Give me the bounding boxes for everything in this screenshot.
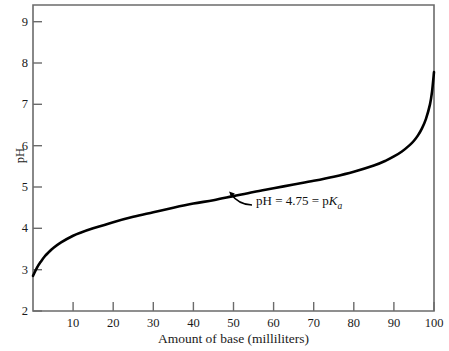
pka-annotation-prefix: pH = 4.75 = p	[256, 193, 329, 208]
xtick-label-70: 70	[294, 317, 334, 330]
xtick-label-20: 20	[93, 317, 133, 330]
x-axis-ticks	[73, 302, 434, 311]
x-axis-label: Amount of base (milliliters)	[33, 331, 434, 347]
xtick-label-80: 80	[334, 317, 374, 330]
titration-curve	[33, 72, 434, 276]
y-axis-label: pH	[13, 126, 28, 186]
ytick-label-2: 2	[6, 305, 28, 318]
xtick-label-100: 100	[414, 317, 449, 330]
ytick-label-7: 7	[6, 98, 28, 111]
axis-frame	[33, 5, 434, 311]
xtick-label-10: 10	[53, 317, 93, 330]
plot-area	[0, 0, 449, 351]
ytick-label-8: 8	[6, 57, 28, 70]
pka-annotation-subscript: a	[337, 201, 342, 211]
xtick-label-30: 30	[133, 317, 173, 330]
pka-annotation-label: pH = 4.75 = pKa	[256, 193, 342, 211]
ytick-label-9: 9	[6, 16, 28, 29]
xtick-label-90: 90	[374, 317, 414, 330]
xtick-label-60: 60	[254, 317, 294, 330]
ytick-label-4: 4	[6, 222, 28, 235]
ytick-label-3: 3	[6, 264, 28, 277]
xtick-label-40: 40	[173, 317, 213, 330]
xtick-label-50: 50	[214, 317, 254, 330]
titration-chart-figure: 2 3 4 5 6 7 8 9 10 20 30 40 50 60 70 80 …	[0, 0, 449, 351]
